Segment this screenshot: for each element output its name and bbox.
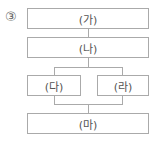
connector-split-horizontal (54, 67, 123, 68)
box-ma: (마) (27, 113, 149, 134)
connector-from-ra (122, 96, 123, 104)
box-ra: (라) (97, 75, 149, 96)
box-ga: (가) (27, 8, 149, 29)
option-number-label: ③ (5, 9, 17, 24)
connector-na-split (88, 58, 89, 67)
connector-ga-na (88, 29, 89, 37)
connector-merge-ma (88, 104, 89, 113)
connector-to-ra (122, 67, 123, 75)
box-da: (다) (27, 75, 81, 96)
connector-to-da (54, 67, 55, 75)
box-na: (나) (27, 37, 149, 58)
connector-from-da (54, 96, 55, 104)
